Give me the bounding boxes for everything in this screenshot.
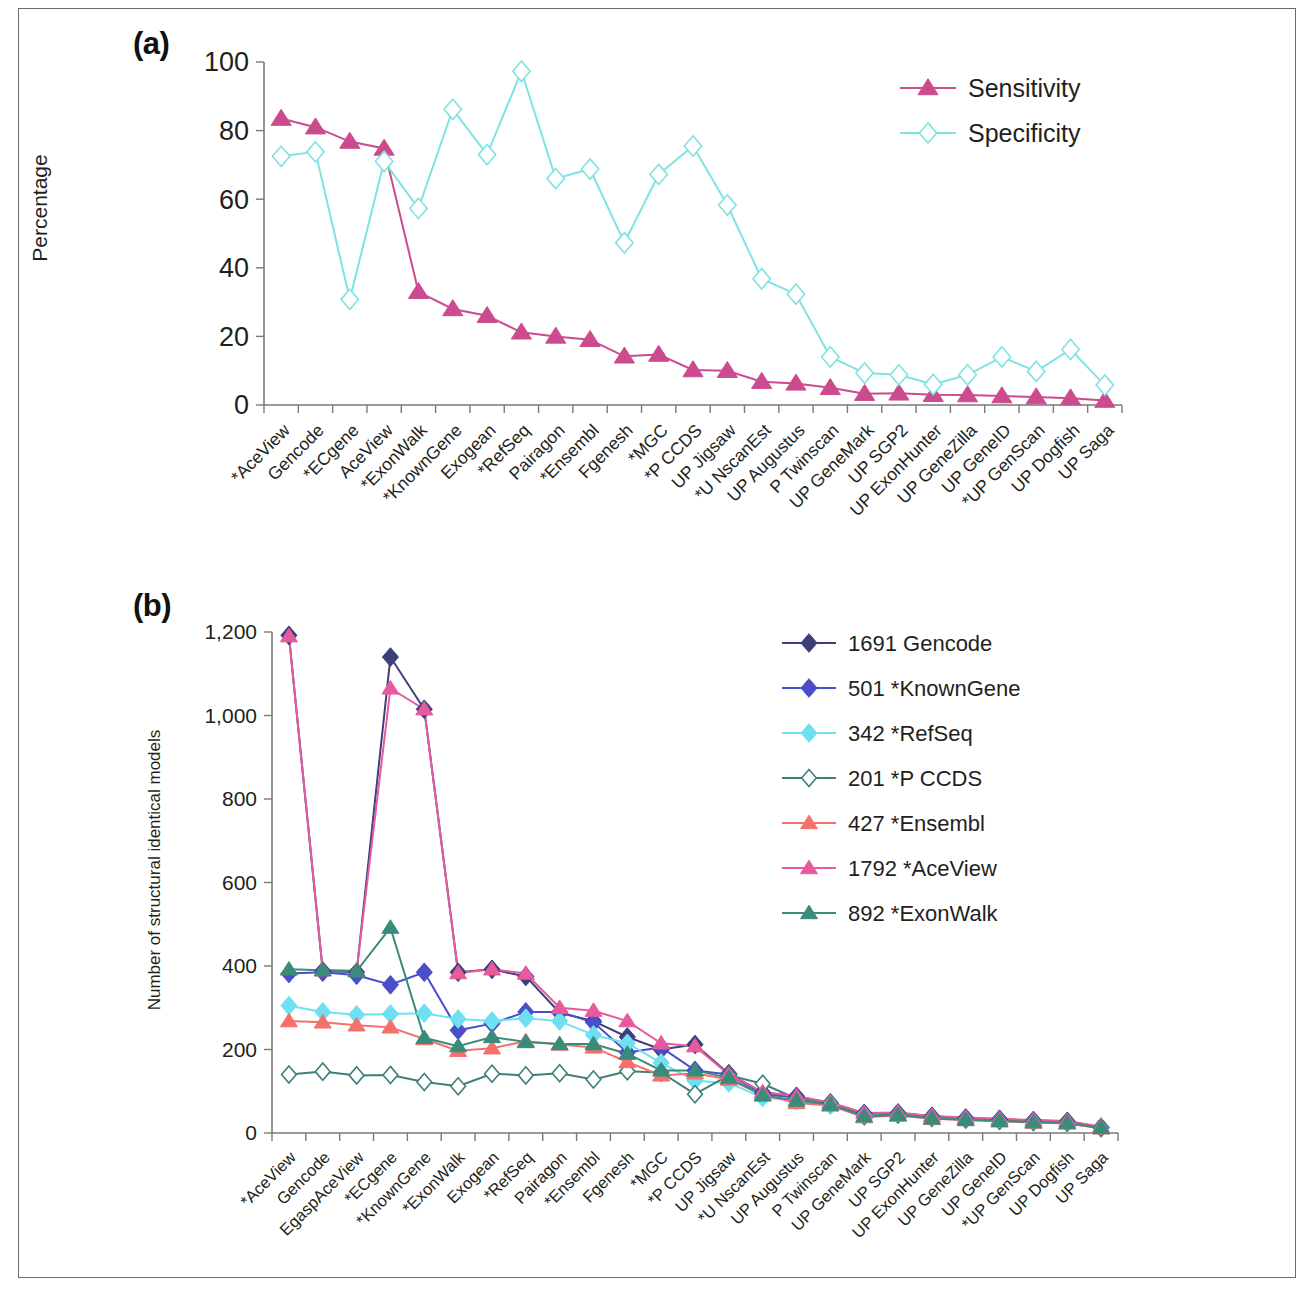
svg-text:0: 0	[234, 390, 249, 420]
svg-text:40: 40	[219, 253, 249, 283]
legend-entry-label: 501 *KnownGene	[848, 676, 1020, 701]
svg-text:600: 600	[222, 871, 257, 894]
legend-entry-label: 201 *P CCDS	[848, 766, 982, 791]
svg-text:1,200: 1,200	[204, 620, 257, 643]
legend-entry-label: Specificity	[968, 119, 1081, 147]
figure-root: (a) (b) Percentage Number of structural …	[0, 0, 1314, 1294]
svg-text:400: 400	[222, 954, 257, 977]
svg-text:20: 20	[219, 322, 249, 352]
legend-entry-label: 1792 *AceView	[848, 856, 997, 881]
legend-entry-label: 342 *RefSeq	[848, 721, 973, 746]
panel-b-chart: 02004006008001,0001,2001691 Gencode501 *…	[0, 560, 1314, 1160]
svg-text:200: 200	[222, 1038, 257, 1061]
svg-text:100: 100	[204, 47, 249, 77]
legend-entry-label: 1691 Gencode	[848, 631, 992, 656]
svg-text:60: 60	[219, 185, 249, 215]
svg-text:0: 0	[245, 1121, 257, 1144]
svg-text:80: 80	[219, 116, 249, 146]
svg-text:800: 800	[222, 787, 257, 810]
legend-entry-label: 892 *ExonWalk	[848, 901, 999, 926]
legend-entry-label: 427 *Ensembl	[848, 811, 985, 836]
svg-text:1,000: 1,000	[204, 704, 257, 727]
legend-entry-label: Sensitivity	[968, 74, 1081, 102]
